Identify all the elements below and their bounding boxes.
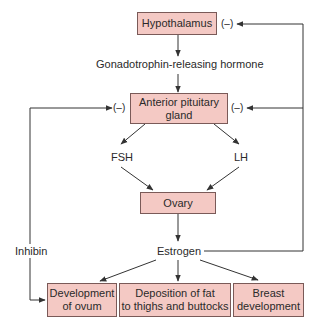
fat-deposition-line1: Deposition of fat (135, 287, 215, 300)
ovary-box: Ovary (140, 192, 216, 214)
negative-feedback-pituitary-left: (–) (113, 102, 125, 114)
fsh-label: FSH (111, 151, 133, 164)
anterior-pituitary-box: Anterior pituitary gland (130, 93, 228, 124)
anterior-pituitary-line2: gland (166, 109, 193, 122)
negative-feedback-hypothalamus: (–) (221, 18, 233, 30)
inhibin-label: Inhibin (15, 245, 47, 258)
development-of-ovum-line1: Development (50, 287, 115, 300)
hypothalamus-box: Hypothalamus (137, 12, 217, 35)
ovary-label: Ovary (163, 197, 192, 210)
connector-lines (0, 0, 319, 328)
negative-feedback-pituitary-right: (–) (231, 102, 243, 114)
fat-deposition-box: Deposition of fat to thighs and buttocks (119, 283, 231, 317)
development-of-ovum-box: Development of ovum (47, 283, 117, 317)
anterior-pituitary-line1: Anterior pituitary (139, 96, 219, 109)
development-of-ovum-line2: of ovum (62, 300, 101, 313)
lh-label: LH (234, 151, 248, 164)
breast-development-box: Breast development (233, 283, 304, 317)
breast-development-line2: development (237, 300, 300, 313)
fat-deposition-line2: to thighs and buttocks (121, 300, 228, 313)
estrogen-label: Estrogen (157, 245, 201, 258)
gnrh-label: Gonadotrophin-releasing hormone (96, 58, 264, 71)
hypothalamus-label: Hypothalamus (142, 17, 212, 30)
breast-development-line1: Breast (253, 287, 285, 300)
